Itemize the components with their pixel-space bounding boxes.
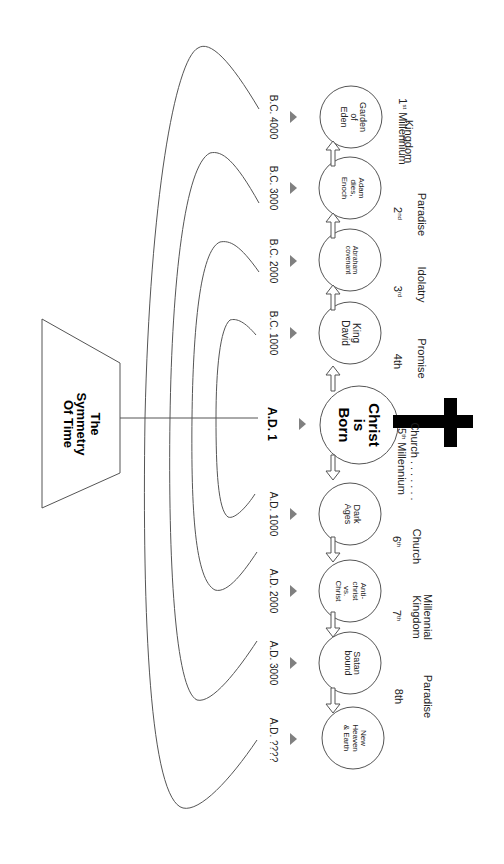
event-label: Adam dies, Enoch [335, 158, 365, 218]
event-label: Abraham covenant [341, 230, 359, 290]
symmetry-arcs [144, 46, 259, 808]
date-markers [290, 111, 306, 745]
event-label: Anti- christ vs. Christ [333, 561, 367, 621]
arc-3000 [170, 153, 259, 701]
millennium-ordinal: 5th Millennium [394, 412, 407, 512]
event-label: New Heaven & Earth [339, 708, 367, 768]
millennium-ordinal: 4th [390, 347, 403, 377]
date-label: A.D. 3000 [264, 633, 278, 693]
triangle-marker-icon [290, 182, 297, 194]
triangle-marker-icon [290, 255, 297, 267]
millennium-ordinal: 3rd [390, 277, 403, 307]
arc-2000 [192, 242, 259, 591]
event-label-center: Christ is Born [336, 385, 382, 465]
millennium-theme: Paradise [414, 180, 427, 250]
diagram-title: The Symmetry Of Time [58, 374, 102, 474]
triangle-marker-icon [290, 585, 297, 597]
date-label: B.C. 2000 [264, 231, 278, 291]
millennium-ordinal: 7th [389, 601, 402, 631]
triangle-marker-icon [290, 657, 297, 669]
millennium-theme: Church [409, 522, 422, 572]
date-label: A.D. 2000 [264, 561, 278, 621]
millennium-theme: Millennial Kingdom [407, 587, 433, 647]
millennium-ordinal: 6th [389, 527, 402, 557]
triangle-marker-icon [290, 508, 297, 520]
triangle-marker-icon [290, 111, 297, 123]
date-label-center: A.D. 1 [264, 394, 278, 454]
millennium-theme: Paradise [420, 667, 433, 727]
triangle-marker-icon [299, 418, 306, 430]
millennium-ordinal: 1st Millennium [395, 87, 408, 177]
millennium-theme: Promise [414, 324, 427, 394]
date-label: B.C. 3000 [264, 158, 278, 218]
triangle-marker-icon [290, 733, 297, 745]
millennium-ordinal: 8th [391, 682, 404, 712]
millennium-theme: Idolatry [414, 250, 427, 320]
event-label: Garden of Eden [335, 87, 367, 147]
millennium-theme: Church . . . . . . . [407, 412, 420, 512]
triangle-marker-icon [290, 327, 297, 339]
millennium-ordinal: 2nd [390, 199, 403, 229]
event-label: Satan bound [339, 633, 361, 693]
event-label: Dark Ages [339, 484, 361, 544]
event-label: King David [339, 303, 361, 363]
date-label: A.D. ???? [264, 710, 278, 770]
date-label: A.D. 1000 [264, 484, 278, 544]
date-label: B.C. 1000 [264, 303, 278, 363]
date-label: B.C. 4000 [264, 87, 278, 147]
